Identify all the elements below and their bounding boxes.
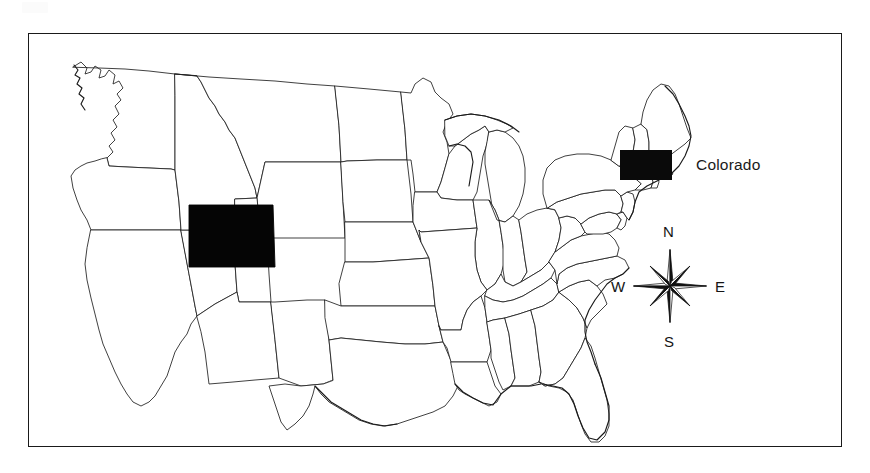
state-new-mexico[interactable] <box>271 300 333 386</box>
state-washington[interactable] <box>73 62 175 170</box>
scan-artifact <box>22 2 48 13</box>
state-oregon[interactable] <box>71 158 181 230</box>
compass-label-north: N <box>663 224 674 239</box>
state-california[interactable] <box>85 230 197 406</box>
compass-rose: N S W E <box>605 222 735 352</box>
state-south-dakota[interactable] <box>341 160 413 222</box>
compass-label-east: E <box>715 279 725 294</box>
compass-label-south: S <box>664 334 674 349</box>
state-kansas[interactable] <box>339 258 435 306</box>
state-north-dakota[interactable] <box>335 86 407 162</box>
map-figure: Colorado <box>0 0 870 473</box>
legend: Colorado <box>620 150 761 180</box>
state-colorado-highlighted[interactable] <box>189 205 275 267</box>
compass-star-icon <box>632 248 708 324</box>
legend-label-colorado: Colorado <box>696 156 761 174</box>
state-oklahoma[interactable] <box>325 300 443 344</box>
coastline-puget-sound <box>74 65 85 110</box>
legend-swatch-colorado <box>620 150 672 180</box>
compass-label-west: W <box>611 279 625 294</box>
